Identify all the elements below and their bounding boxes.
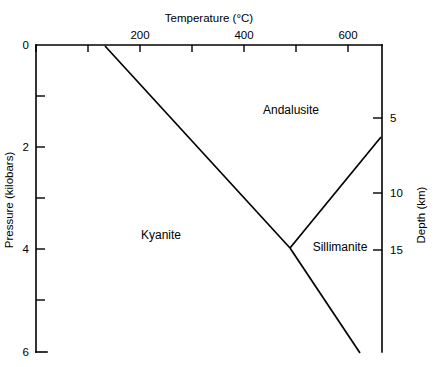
tick-label-d10: 10 xyxy=(390,187,403,199)
region-label-andalusite: Andalusite xyxy=(263,103,319,117)
y-axis-title: Pressure (kilobars) xyxy=(3,152,15,249)
left-axis-ticks xyxy=(36,96,45,300)
tick-label-d15: 15 xyxy=(390,244,403,256)
y2-axis-title: Depth (km) xyxy=(415,186,427,243)
andalusite-sillimanite-boundary xyxy=(290,137,381,248)
region-label-kyanite: Kyanite xyxy=(141,228,181,242)
kyanite-andalusite-boundary xyxy=(105,46,290,248)
tick-label-t200: 200 xyxy=(130,29,149,41)
region-label-sillimanite: Sillimanite xyxy=(313,240,368,254)
x-axis-title: Temperature (°C) xyxy=(165,12,253,24)
phase-diagram-figure: 200 400 600 0 2 4 6 5 10 15 Temperature … xyxy=(0,0,435,367)
chart-canvas: 200 400 600 0 2 4 6 5 10 15 Temperature … xyxy=(0,0,435,367)
phase-boundaries xyxy=(105,46,381,353)
tick-label-t600: 600 xyxy=(338,29,357,41)
tick-label-t400: 400 xyxy=(234,29,253,41)
tick-label-p6: 6 xyxy=(23,346,29,358)
tick-label-p0: 0 xyxy=(23,39,29,51)
tick-label-d5: 5 xyxy=(390,112,396,124)
tick-label-p4: 4 xyxy=(23,243,30,255)
tick-label-p2: 2 xyxy=(23,141,29,153)
top-axis-ticks xyxy=(36,45,348,52)
kyanite-sillimanite-boundary xyxy=(290,248,360,353)
